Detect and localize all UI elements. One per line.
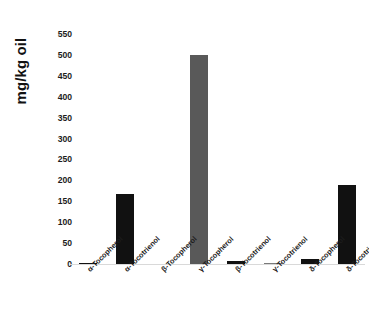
x-axis-tick-label: β-Tocopherol <box>160 268 165 273</box>
x-axis-tick-label: δ-Tocotrienol <box>345 268 350 273</box>
y-axis-tick-label: 250 <box>44 155 72 164</box>
x-axis-tick-label: γ-Tocotrienol <box>271 268 276 273</box>
bar-chart-figure: mg/kg oil 050100150200250300350400450500… <box>0 0 369 329</box>
y-axis-tick-label: 0 <box>44 260 72 269</box>
y-axis-tick-label: 550 <box>44 30 72 39</box>
y-axis-tick-label: 350 <box>44 113 72 122</box>
y-axis-tick-label: 100 <box>44 218 72 227</box>
y-axis-tick-label: 300 <box>44 134 72 143</box>
y-axis-tick-label: 50 <box>44 239 72 248</box>
bar <box>190 55 208 264</box>
x-axis-tick-label: δ-Tocopherol <box>308 268 313 273</box>
y-axis-tick-label: 200 <box>44 176 72 185</box>
x-axis-tick-label: γ-Tocopherol <box>197 268 202 273</box>
bar <box>116 194 134 264</box>
y-axis-tick-label: 450 <box>44 72 72 81</box>
y-axis-tick-label: 400 <box>44 92 72 101</box>
x-axis-tick-label: α-Tocopherol <box>86 268 91 273</box>
y-axis-tick-labels: 050100150200250300350400450500550 <box>44 0 72 329</box>
x-axis-tick-label: α-Tocotrienol <box>123 268 128 273</box>
y-axis-tick-label: 500 <box>44 51 72 60</box>
bar <box>338 185 356 264</box>
plot-area <box>70 34 365 264</box>
x-axis-tick-label: β-Tocotrienol <box>234 268 239 273</box>
y-axis-tick-label: 150 <box>44 197 72 206</box>
y-axis-title: mg/kg oil <box>8 16 34 126</box>
x-axis-tick-labels: α-Tocopherolα-Tocotrienolβ-Tocopherolγ-T… <box>70 264 365 329</box>
